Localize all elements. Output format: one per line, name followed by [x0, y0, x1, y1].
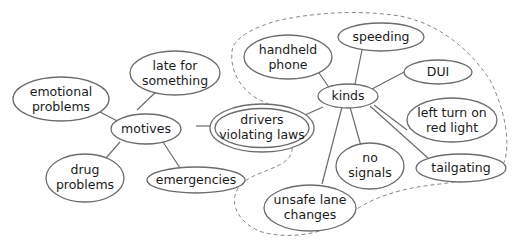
svg-text:phone: phone: [268, 57, 307, 72]
node-kinds: kinds: [318, 84, 378, 108]
svg-text:problems: problems: [32, 99, 90, 114]
concept-map: drivers violating laws motives emotional…: [0, 0, 525, 252]
svg-text:no: no: [362, 150, 378, 165]
svg-text:unsafe lane: unsafe lane: [274, 192, 347, 207]
svg-text:tailgating: tailgating: [431, 160, 490, 175]
svg-text:DUI: DUI: [427, 64, 449, 79]
node-emotional-problems: emotional problems: [13, 77, 109, 121]
svg-text:red light: red light: [426, 120, 478, 135]
svg-text:drivers: drivers: [240, 112, 283, 127]
svg-text:changes: changes: [284, 207, 337, 222]
svg-text:late for: late for: [153, 58, 199, 73]
node-tailgating: tailgating: [416, 154, 506, 182]
svg-text:speeding: speeding: [352, 29, 409, 44]
node-no-signals: no signals: [336, 143, 404, 189]
svg-text:problems: problems: [56, 177, 114, 192]
node-late-for-something: late for something: [130, 51, 220, 95]
svg-text:kinds: kinds: [331, 88, 364, 103]
node-dui: DUI: [404, 60, 472, 84]
svg-text:emergencies: emergencies: [156, 172, 237, 187]
node-unsafe-lane-changes: unsafe lane changes: [264, 185, 356, 231]
svg-text:signals: signals: [348, 165, 392, 180]
node-left-turn-on-red-light: left turn on red light: [407, 98, 497, 142]
node-emergencies: emergencies: [147, 167, 245, 193]
svg-text:emotional: emotional: [30, 84, 93, 99]
svg-text:drug: drug: [71, 162, 100, 177]
node-speeding: speeding: [338, 23, 424, 51]
svg-text:something: something: [142, 73, 208, 88]
svg-text:handheld: handheld: [259, 42, 317, 57]
node-drivers-violating-laws: drivers violating laws: [210, 104, 314, 152]
svg-text:violating laws: violating laws: [219, 127, 305, 142]
node-motives: motives: [111, 114, 181, 144]
svg-text:left turn on: left turn on: [417, 105, 486, 120]
node-handheld-phone: handheld phone: [244, 35, 332, 79]
svg-text:motives: motives: [121, 121, 171, 136]
node-drug-problems: drug problems: [46, 154, 124, 202]
